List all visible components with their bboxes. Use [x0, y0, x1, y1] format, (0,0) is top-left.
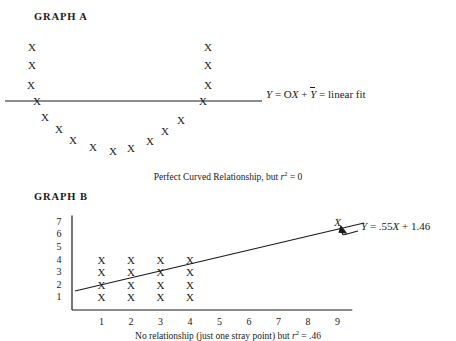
graph-b-caption-suffix: = .46	[299, 331, 321, 341]
graph-a-mark-curve: X	[41, 112, 49, 123]
graph-a-eq-ybar: Y	[310, 88, 316, 100]
graph-b-mark-cluster: X	[98, 279, 106, 290]
graph-b-callout-arrow	[342, 231, 358, 235]
graph-a-mark-curve: X	[127, 143, 135, 154]
graph-b-mark-cluster: X	[127, 254, 135, 265]
graph-a-eq-x: X	[292, 88, 299, 100]
graph-b-caption-prefix: No relationship (just one stray point) b…	[135, 331, 292, 341]
graph-a-equation: Y = OX + Y = linear fit	[266, 88, 366, 100]
graph-a-mark-curve: X	[55, 124, 63, 135]
graph-a-mark-curve: X	[146, 136, 154, 147]
graph-b-mark-cluster: X	[127, 279, 135, 290]
graph-a-mark-left: X	[27, 80, 35, 91]
graph-b-mark-cluster: X	[186, 292, 194, 303]
graph-b-mark-cluster: X	[98, 292, 106, 303]
graph-b-y-tick-label: 6	[57, 229, 62, 239]
graph-b-equation: Y = .55X + 1.46	[361, 220, 430, 232]
graph-b-x-tick-label: 1	[99, 317, 104, 327]
graph-b-mark-cluster: X	[98, 254, 106, 265]
graph-a-caption: Perfect Curved Relationship, but r2 = 0	[0, 170, 456, 182]
graph-a-mark-right: X	[204, 42, 212, 53]
graph-b-x-tick-label: 6	[247, 317, 252, 327]
graph-b-mark-cluster: X	[157, 292, 165, 303]
graph-a-mark-curve: X	[69, 135, 77, 146]
graph-b-caption: No relationship (just one stray point) b…	[0, 329, 456, 341]
graph-b-x-tick-label: 9	[335, 317, 340, 327]
graph-a-mark-right: X	[204, 60, 212, 71]
graph-a-mark-curve: X	[177, 115, 185, 126]
graph-a-caption-suffix: = 0	[288, 172, 303, 182]
graph-b-x-tick-label: 8	[306, 317, 311, 327]
graph-b-y-tick-label: 2	[57, 280, 62, 290]
graph-b-mark-cluster: X	[127, 292, 135, 303]
graph-b-x-tick-label: 7	[276, 317, 281, 327]
graph-b-y-tick-label: 4	[57, 255, 62, 265]
graph-b-mark-cluster: X	[186, 279, 194, 290]
graph-b-mark-cluster: X	[157, 254, 165, 265]
graph-b-y-tick-label: 3	[57, 267, 62, 277]
graph-b-x-tick-label: 4	[188, 317, 193, 327]
graph-a-eq-tail: = linear fit	[316, 88, 365, 100]
graph-b-eq-tail: + 1.46	[399, 220, 430, 232]
graph-b-y-tick-label: 7	[57, 217, 62, 227]
graph-b-mark-cluster: X	[98, 267, 106, 278]
graph-a-mark-curve: X	[109, 146, 117, 157]
graph-a-title: GRAPH A	[34, 11, 88, 22]
graph-a-mark-left: X	[28, 60, 36, 71]
graph-b-y-tick-label: 1	[57, 292, 62, 302]
graph-a-mark-curve: X	[89, 142, 97, 153]
graph-a-eq-plus: +	[299, 88, 311, 100]
graph-b-mark-cluster: X	[157, 267, 165, 278]
graph-b-eq-rest: = .55	[367, 220, 392, 232]
graph-b-x-tick-label: 2	[129, 317, 134, 327]
graph-b-title: GRAPH B	[34, 191, 88, 202]
graph-a-mark-curve: X	[161, 126, 169, 137]
graph-a-mark-right: X	[199, 96, 207, 107]
graph-b-mark-stray-point: X	[334, 216, 341, 227]
graph-a-mark-left: X	[33, 96, 41, 107]
graph-a-caption-prefix: Perfect Curved Relationship, but	[154, 172, 281, 182]
cropped-header-text	[0, 0, 456, 8]
graph-a-eq-mid: = O	[272, 88, 292, 100]
graph-b-mark-cluster: X	[186, 254, 194, 265]
graph-b-x-tick-label: 3	[158, 317, 163, 327]
graph-b-y-tick-label: 5	[57, 242, 62, 252]
graph-b-regression-line	[75, 223, 364, 291]
graph-b-x-tick-label: 5	[217, 317, 222, 327]
graph-a-mark-right: X	[204, 80, 212, 91]
graph-b-mark-cluster: X	[186, 267, 194, 278]
graph-b-mark-cluster: X	[127, 267, 135, 278]
graph-a-mark-left: X	[28, 42, 36, 53]
graph-b-mark-cluster: X	[157, 279, 165, 290]
